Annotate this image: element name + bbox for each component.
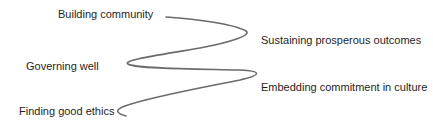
label-building-community: Building community bbox=[58, 8, 153, 21]
zigzag-diagram: Building community Sustaining prosperous… bbox=[0, 0, 433, 126]
label-embedding-commitment-in-culture: Embedding commitment in culture bbox=[261, 81, 427, 94]
label-finding-good-ethics: Finding good ethics bbox=[19, 105, 114, 118]
label-sustaining-prosperous-outcomes: Sustaining prosperous outcomes bbox=[261, 34, 421, 47]
label-governing-well: Governing well bbox=[26, 60, 99, 73]
